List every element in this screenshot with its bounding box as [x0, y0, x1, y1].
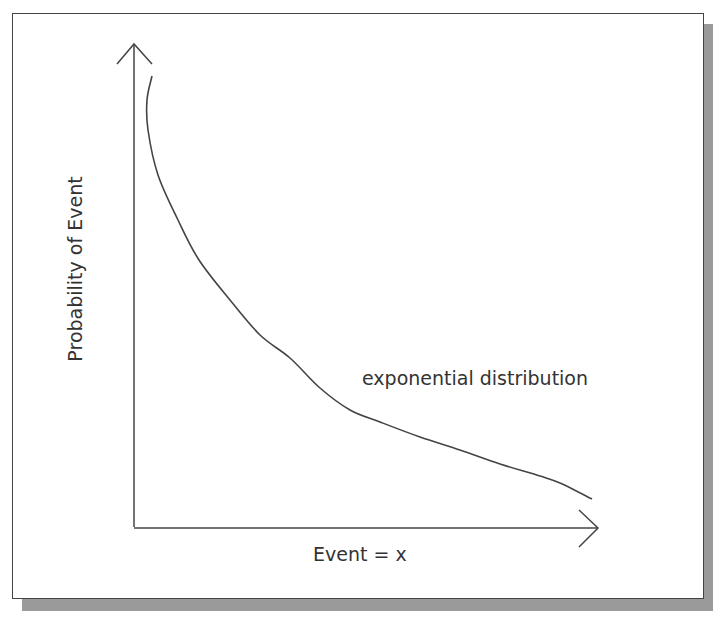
diagram-canvas	[0, 0, 724, 620]
curve-label: exponential distribution	[362, 367, 588, 389]
y-axis-label: Probability of Event	[64, 176, 86, 361]
x-axis-label: Event = x	[313, 543, 407, 565]
exponential-curve	[147, 76, 592, 499]
x-axis	[134, 510, 598, 547]
